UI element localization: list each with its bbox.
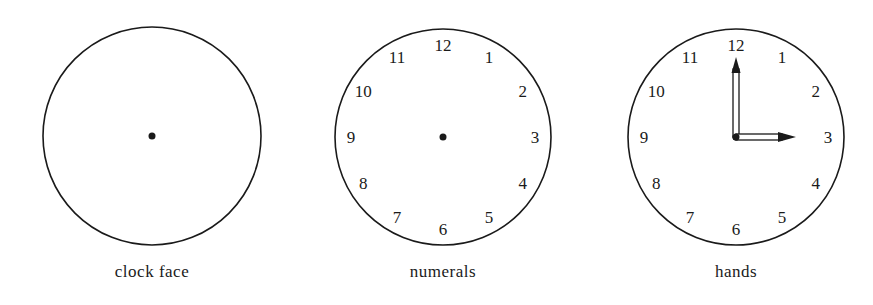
center-dot — [440, 134, 447, 141]
figure-caption: hands — [715, 262, 757, 281]
minute-hand — [733, 69, 739, 137]
numeral-12: 12 — [728, 36, 745, 55]
numeral-9: 9 — [347, 128, 356, 147]
numeral-12: 12 — [435, 36, 452, 55]
numeral-8: 8 — [359, 174, 368, 193]
clock-hands — [732, 57, 797, 142]
numeral-9: 9 — [640, 128, 649, 147]
numeral-4: 4 — [518, 174, 527, 193]
numeral-3: 3 — [531, 128, 540, 147]
numeral-1: 1 — [778, 48, 787, 67]
minute-hand-arrow-icon — [732, 57, 741, 73]
figure-caption: clock face — [115, 262, 189, 281]
numeral-8: 8 — [652, 174, 661, 193]
clock-figure-0: clock face — [43, 27, 261, 281]
hour-hand-arrow-icon — [778, 132, 796, 142]
numeral-10: 10 — [648, 82, 665, 101]
numeral-2: 2 — [518, 82, 527, 101]
clock-figure-2: 121234567891011hands — [628, 29, 844, 281]
numeral-5: 5 — [485, 208, 494, 227]
numeral-7: 7 — [393, 208, 402, 227]
numeral-4: 4 — [811, 174, 820, 193]
numeral-11: 11 — [389, 48, 405, 67]
numeral-1: 1 — [485, 48, 494, 67]
center-dot — [149, 133, 156, 140]
hour-hand — [736, 134, 782, 140]
clock-figure-1: 121234567891011numerals — [335, 29, 551, 281]
numeral-5: 5 — [778, 208, 787, 227]
clock-diagram: clock face121234567891011numerals1212345… — [0, 0, 873, 305]
numeral-2: 2 — [811, 82, 820, 101]
numeral-3: 3 — [824, 128, 833, 147]
hands-pivot — [733, 134, 740, 141]
numeral-11: 11 — [682, 48, 698, 67]
numeral-6: 6 — [732, 220, 741, 239]
figure-caption: numerals — [410, 262, 476, 281]
numeral-10: 10 — [355, 82, 372, 101]
numeral-6: 6 — [439, 220, 448, 239]
numeral-7: 7 — [686, 208, 695, 227]
